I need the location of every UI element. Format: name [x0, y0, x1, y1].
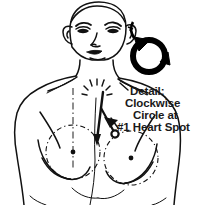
figure-illustration	[0, 0, 197, 205]
guide-circle-left-center-dot	[71, 150, 76, 155]
anatomy-detail-figure: Detail: Clockwise Circle at #1 Heart Spo…	[0, 0, 197, 205]
figure-background	[0, 0, 197, 205]
guide-circle-right-center-dot	[129, 156, 134, 161]
heart-spot-marker	[111, 130, 118, 137]
nostril-left	[91, 44, 96, 45]
